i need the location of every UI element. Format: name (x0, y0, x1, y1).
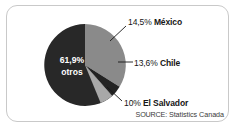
callout-name-mexico: México (154, 17, 182, 27)
callout-name-elsalvador: El Salvador (143, 98, 188, 108)
callout-percent-chile: 13,6% (134, 58, 158, 68)
source-attribution: SOURCE: Statistics Canada (136, 110, 224, 119)
pie-chart-figure: 61,9% otros 14,5% México 13,6% Chile 10%… (0, 0, 237, 129)
callout-label-mexico: 14,5% México (128, 17, 182, 27)
callout-label-chile: 13,6% Chile (134, 58, 180, 68)
slice-label-otros-percent: 61,9% (50, 55, 94, 65)
leader-line-mexico (110, 26, 126, 41)
callout-label-elsalvador: 10% El Salvador (124, 98, 188, 108)
callout-percent-mexico: 14,5% (128, 17, 152, 27)
callout-percent-elsalvador: 10% (124, 98, 141, 108)
slice-label-otros-name: otros (50, 67, 94, 77)
callout-name-chile: Chile (160, 58, 180, 68)
source-value: Statistics Canada (169, 110, 224, 119)
source-label: SOURCE: (136, 110, 167, 119)
